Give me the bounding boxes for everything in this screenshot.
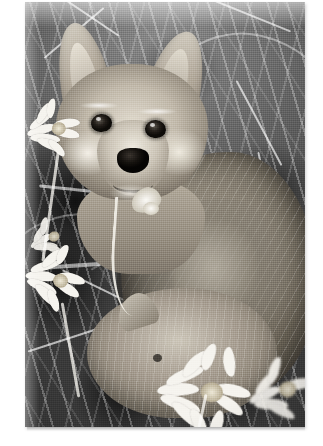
page-canvas [0,0,323,446]
photograph [25,2,305,427]
edge-fade [25,2,305,427]
photo-drop-shadow [27,427,305,431]
